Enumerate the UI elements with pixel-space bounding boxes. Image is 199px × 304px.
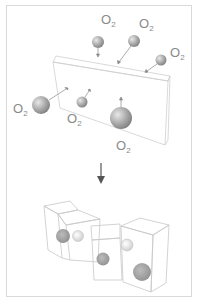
split-blocks — [44, 201, 169, 292]
o2-molecule-1 — [92, 36, 104, 48]
o2-label-5: O2 — [67, 111, 82, 128]
o2-label-6: O2 — [116, 138, 131, 155]
o2-molecule-3 — [156, 55, 167, 66]
trapped-bubbles — [56, 229, 151, 281]
oxygen-molecules — [32, 35, 167, 129]
o2-molecule-4 — [32, 96, 50, 114]
o2-label-4: O2 — [13, 101, 28, 118]
diagram-canvas: O2 O2 O2 O2 O2 O2 — [0, 0, 199, 304]
o2-labels: O2 O2 O2 O2 O2 O2 — [13, 12, 185, 155]
o2-label-2: O2 — [139, 16, 154, 33]
o2-label-3: O2 — [170, 45, 185, 62]
o2-molecule-5 — [77, 97, 88, 108]
o2-molecule-2 — [128, 35, 140, 47]
down-arrow-icon — [97, 163, 105, 184]
o2-molecule-6 — [110, 107, 132, 129]
o2-label-1: O2 — [101, 12, 116, 29]
solid-block — [53, 56, 170, 145]
